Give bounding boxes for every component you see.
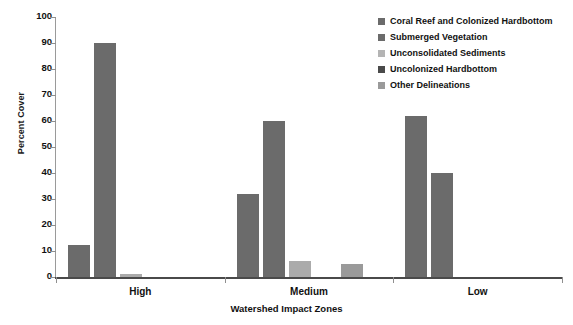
- y-axis-tick-label: 0: [12, 270, 52, 281]
- legend: Coral Reef and Colonized HardbottomSubme…: [378, 13, 553, 93]
- x-axis-category-label: Low: [433, 286, 523, 297]
- legend-swatch-icon: [378, 50, 385, 57]
- legend-swatch-icon: [378, 18, 385, 25]
- y-axis-tick-label: 40: [12, 166, 52, 177]
- y-axis-tick-label: 50: [12, 140, 52, 151]
- y-axis-tick-label: 70: [12, 88, 52, 99]
- legend-swatch-icon: [378, 82, 385, 89]
- legend-item-label: Submerged Vegetation: [390, 32, 488, 42]
- legend-item[interactable]: Uncolonized Hardbottom: [378, 61, 553, 77]
- x-axis-tick-mark: [562, 277, 563, 283]
- bar: [289, 261, 311, 277]
- legend-item-label: Other Delineations: [390, 80, 470, 90]
- x-axis-category-label: High: [95, 286, 185, 297]
- legend-item[interactable]: Unconsolidated Sediments: [378, 45, 553, 61]
- x-axis-tick-mark: [56, 277, 57, 283]
- y-axis-tick-label: 10: [12, 244, 52, 255]
- x-axis-tick-mark: [393, 277, 394, 283]
- y-axis-tick-label: 60: [12, 114, 52, 125]
- x-axis-tick-mark: [225, 277, 226, 283]
- y-axis-tick-label: 80: [12, 62, 52, 73]
- legend-item-label: Coral Reef and Colonized Hardbottom: [390, 16, 553, 26]
- bar-chart: Percent Cover 1009080706050403020100 Hig…: [0, 0, 573, 325]
- x-axis-line: [55, 277, 562, 279]
- legend-item-label: Unconsolidated Sediments: [390, 48, 506, 58]
- bar: [237, 194, 259, 277]
- y-axis-tick-label: 30: [12, 192, 52, 203]
- bar: [68, 245, 90, 278]
- y-axis-tick-label: 20: [12, 218, 52, 229]
- legend-item-label: Uncolonized Hardbottom: [390, 64, 497, 74]
- legend-item[interactable]: Coral Reef and Colonized Hardbottom: [378, 13, 553, 29]
- x-axis-title: Watershed Impact Zones: [0, 303, 573, 314]
- bar: [94, 43, 116, 277]
- x-axis-category-label: Medium: [264, 286, 354, 297]
- bar: [263, 121, 285, 277]
- legend-item[interactable]: Other Delineations: [378, 77, 553, 93]
- legend-swatch-icon: [378, 34, 385, 41]
- bar: [431, 173, 453, 277]
- y-axis-tick-label: 100: [12, 10, 52, 21]
- legend-swatch-icon: [378, 66, 385, 73]
- y-axis-tick-label: 90: [12, 36, 52, 47]
- bar: [341, 264, 363, 277]
- bar: [405, 116, 427, 277]
- legend-item[interactable]: Submerged Vegetation: [378, 29, 553, 45]
